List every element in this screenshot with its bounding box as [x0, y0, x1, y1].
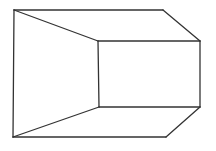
- edge-inner-top-left-to-inner-bottom-left: [98, 41, 99, 107]
- edge-outer-bottom-left-to-outer-top-left: [13, 10, 14, 137]
- edge-outer-bottom-left-to-inner-bottom-left: [13, 107, 99, 137]
- edge-right-bottom-to-outer-bottom-right: [166, 107, 200, 137]
- diagram-canvas: [0, 0, 216, 151]
- geometric-solid-drawing: [0, 0, 216, 151]
- edge-outer-top-right-to-right-top: [163, 10, 200, 41]
- edge-outer-top-left-to-inner-top-left: [14, 10, 98, 41]
